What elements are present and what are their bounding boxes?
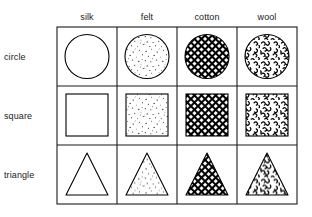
cell-square-wool bbox=[246, 94, 288, 136]
cell-triangle-cotton bbox=[184, 151, 230, 197]
cell-triangle-silk bbox=[66, 153, 108, 195]
cell-circle-wool bbox=[244, 33, 290, 80]
shape-material-matrix-figure: silk felt cotton wool circle square tria… bbox=[0, 0, 312, 217]
cell-circle-felt bbox=[124, 33, 170, 80]
cell-square-cotton bbox=[186, 94, 228, 136]
cell-triangle-felt bbox=[124, 151, 170, 197]
cell-square-felt bbox=[126, 94, 168, 136]
cell-triangle-wool bbox=[244, 151, 290, 197]
cell-circle-cotton bbox=[184, 33, 230, 80]
cell-circle-silk bbox=[65, 35, 109, 79]
cell-square-silk bbox=[66, 94, 108, 136]
matrix-grid bbox=[0, 0, 312, 217]
